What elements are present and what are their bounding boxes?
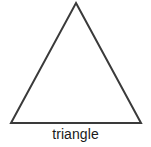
shape-label: triangle bbox=[0, 126, 151, 142]
figure-canvas: triangle bbox=[0, 0, 151, 147]
triangle-outline bbox=[11, 3, 141, 123]
triangle-shape-svg bbox=[0, 0, 151, 147]
